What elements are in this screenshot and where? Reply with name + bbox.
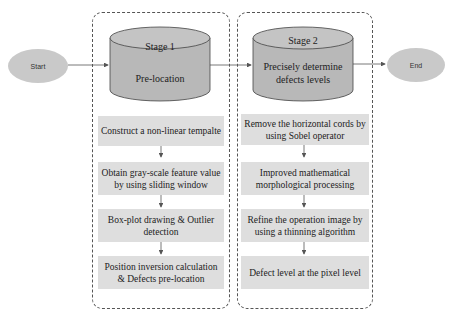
stage2-step-1: Remove the horizontal cords by using Sob… [241,114,369,145]
stage1-subtitle: Pre-location [110,72,210,85]
start-node: Start [8,49,68,83]
stage2-step-3: Refine the operation image by using a th… [241,209,369,242]
end-label: End [410,62,422,69]
stage1-step-2: Obtain gray-scale feature value by using… [98,162,224,195]
stage2-step-2: Improved mathematical morphological proc… [241,162,369,195]
stage2-subtitle: Precisely determine defects levels [253,60,353,86]
start-label: Start [31,63,46,70]
stage1-step-4: Position inversion calculation & Defects… [98,256,224,289]
stage1-step-1: Construct a non-linear tempalte [98,116,224,146]
stage2-step-4: Defect level at the pixel level [241,256,369,289]
stage1-title: Stage 1 [110,40,210,53]
stage2-title: Stage 2 [253,34,353,47]
end-node: End [387,48,445,82]
stage1-step-3: Box-plot drawing & Outlier detection [98,209,224,242]
